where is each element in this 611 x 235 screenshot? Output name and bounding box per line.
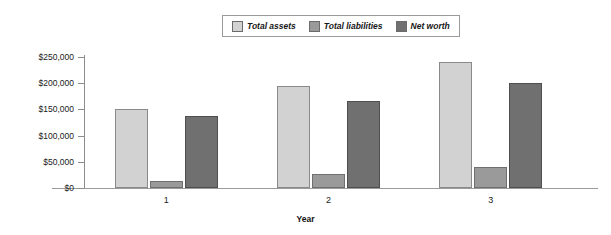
legend-label-net-worth: Net worth bbox=[411, 22, 450, 31]
y-axis-tick-label: $150,000 bbox=[18, 105, 74, 114]
y-axis-tick-label: $200,000 bbox=[18, 79, 74, 88]
chart-legend: Total assets Total liabilities Net worth bbox=[222, 15, 460, 37]
legend-label-total-assets: Total assets bbox=[247, 22, 296, 31]
bar-net-worth-year-3 bbox=[509, 83, 542, 188]
bar-net-worth-year-2 bbox=[347, 101, 380, 189]
legend-swatch-net-worth bbox=[396, 21, 407, 32]
bar-total-assets-year-1 bbox=[115, 109, 148, 188]
legend-swatch-total-liabilities bbox=[309, 21, 320, 32]
legend-item-total-assets: Total assets bbox=[232, 21, 296, 32]
y-axis-tick-label: $250,000 bbox=[18, 53, 74, 62]
x-axis-line bbox=[52, 188, 598, 189]
legend-label-total-liabilities: Total liabilities bbox=[324, 22, 383, 31]
y-axis-tick bbox=[78, 136, 84, 137]
bar-total-assets-year-3 bbox=[439, 62, 472, 188]
bar-net-worth-year-1 bbox=[185, 116, 218, 188]
bar-total-liabilities-year-3 bbox=[474, 167, 507, 188]
x-axis-tick-label: 3 bbox=[488, 196, 493, 205]
x-axis-tick-label: 1 bbox=[164, 196, 169, 205]
x-axis-tick-label: 2 bbox=[326, 196, 331, 205]
y-axis-tick bbox=[78, 83, 84, 84]
x-axis-title: Year bbox=[0, 214, 611, 224]
y-axis-tick bbox=[78, 188, 84, 189]
bar-chart: Total assets Total liabilities Net worth… bbox=[0, 0, 611, 235]
bar-total-assets-year-2 bbox=[277, 86, 310, 188]
bar-total-liabilities-year-2 bbox=[312, 174, 345, 188]
bar-total-liabilities-year-1 bbox=[150, 181, 183, 188]
y-axis-tick bbox=[78, 57, 84, 58]
y-axis-tick-label: $100,000 bbox=[18, 131, 74, 140]
y-axis-tick bbox=[78, 109, 84, 110]
y-axis-tick-label: $0 bbox=[18, 184, 74, 193]
plot-area bbox=[85, 57, 572, 188]
y-axis-tick bbox=[78, 162, 84, 163]
legend-item-net-worth: Net worth bbox=[396, 21, 450, 32]
legend-swatch-total-assets bbox=[232, 21, 243, 32]
legend-item-total-liabilities: Total liabilities bbox=[309, 21, 383, 32]
y-axis-tick-label: $50,000 bbox=[18, 158, 74, 167]
